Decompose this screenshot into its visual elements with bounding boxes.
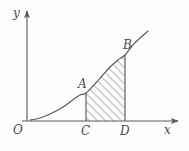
figure-container: y x O A B C D	[0, 0, 189, 151]
y-axis-label: y	[13, 7, 20, 19]
origin-label: O	[13, 124, 23, 136]
point-label-c: C	[81, 125, 90, 137]
x-axis-label: x	[164, 124, 171, 136]
point-label-b: B	[123, 39, 132, 51]
diagram-canvas	[0, 0, 189, 151]
point-label-a: A	[78, 78, 87, 90]
point-label-d: D	[120, 125, 130, 137]
